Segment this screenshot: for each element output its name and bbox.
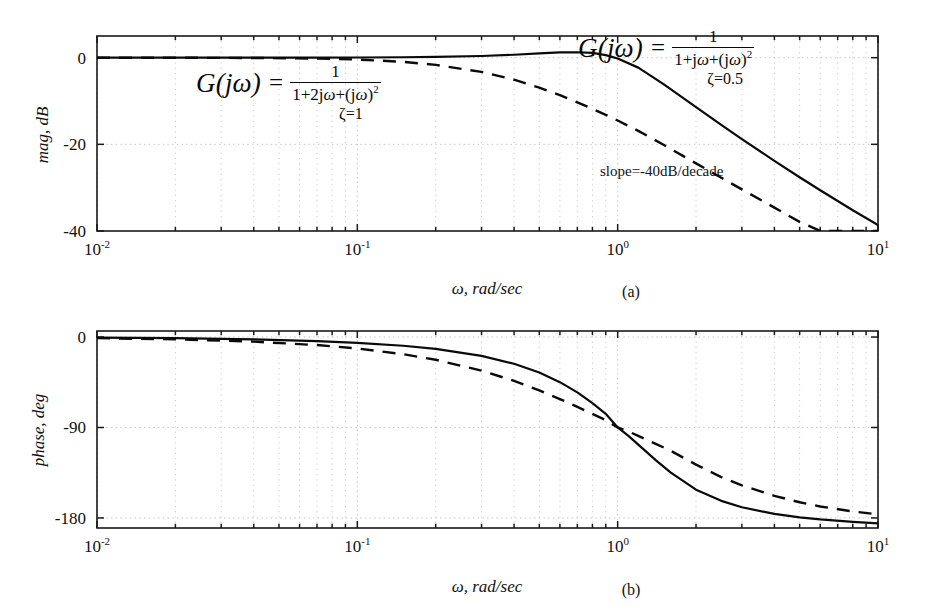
formula-zeta-1: G(jω) = 1 1+2jω+(jω)2 ζ=1 (196, 63, 381, 123)
formula-left-numerator: 1 (326, 63, 345, 82)
x-tick-label: 10-2 (84, 238, 110, 259)
formula-right-equals: = (651, 34, 665, 62)
formula-right-den-mid: +(j (709, 50, 729, 69)
phase-ticks (97, 331, 878, 528)
x-tick-label: 100 (606, 238, 629, 259)
formula-right-denominator: 1+jω+(jω)2 (672, 48, 754, 68)
formula-zeta-0p5: G(jω) = 1 1+jω+(jω)2 ζ=0.5 (578, 28, 754, 88)
phase-plot-frame (97, 331, 878, 528)
y-tick-label: 0 (78, 328, 87, 347)
x-tick-label: 10-1 (344, 535, 370, 556)
y-tick-label: -180 (55, 509, 86, 528)
x-tick-label: 10-1 (344, 238, 370, 259)
formula-right-den-exponent: 2 (747, 48, 753, 60)
magnitude-y-tick-labels: 0-20-40 (63, 49, 86, 241)
x-tick-label: 10-2 (84, 535, 110, 556)
phase-curve-zeta-1 (97, 338, 878, 514)
magnitude-x-axis-title: ω, rad/sec (452, 279, 523, 298)
y-tick-label: -40 (63, 222, 86, 241)
formula-left-den-exponent: 2 (373, 83, 379, 95)
formula-left-damping: ζ=1 (321, 105, 381, 123)
formula-left-fraction: 1 1+2jω+(jω)2 (290, 63, 381, 104)
magnitude-x-tick-labels: 10-210-1100101 (84, 238, 889, 259)
x-tick-label: 101 (867, 535, 890, 556)
formula-right-fraction: 1 1+jω+(jω)2 (672, 28, 754, 69)
y-tick-label: -90 (63, 418, 86, 437)
subplot-caption-a: (a) (622, 283, 640, 301)
magnitude-plot-svg: 0-20-40 10-210-1100101 mag, dB ω, rad/se… (0, 0, 926, 310)
phase-x-tick-labels: 10-210-1100101 (84, 535, 889, 556)
formula-right-damping: ζ=0.5 (696, 70, 754, 88)
phase-panel: 0-90-180 10-210-1100101 phase, deg ω, ra… (0, 310, 926, 615)
formula-left-den-prefix: 1+2j (292, 85, 323, 104)
x-tick-label: 101 (867, 238, 890, 259)
slope-annotation: slope=-40dB/decade (600, 163, 724, 179)
formula-left-denominator: 1+2jω+(jω)2 (290, 83, 381, 103)
formula-left-lhs: G(jω) (196, 68, 261, 99)
y-tick-label: 0 (78, 49, 87, 68)
formula-right-den-prefix: 1+j (674, 50, 697, 69)
formula-left-equals: = (269, 69, 283, 97)
formula-left-den-mid: +(j (335, 85, 355, 104)
formula-right-den-omega: ω (697, 50, 709, 69)
phase-x-axis-title: ω, rad/sec (452, 577, 523, 596)
formula-right-lhs: G(jω) (578, 33, 643, 64)
phase-y-tick-labels: 0-90-180 (55, 328, 86, 528)
magnitude-y-axis-title: mag, dB (33, 106, 52, 163)
phase-gridlines (97, 331, 878, 528)
formula-right-den-omega2: ω (729, 50, 741, 69)
y-tick-label: -20 (63, 135, 86, 154)
formula-left-den-omega2: ω (355, 85, 367, 104)
phase-curve-zeta-0p5 (97, 338, 878, 524)
phase-plot-svg: 0-90-180 10-210-1100101 phase, deg ω, ra… (0, 310, 926, 615)
formula-left-den-omega: ω (323, 85, 335, 104)
bode-plot-figure: 0-20-40 10-210-1100101 mag, dB ω, rad/se… (0, 0, 926, 615)
magnitude-panel: 0-20-40 10-210-1100101 mag, dB ω, rad/se… (0, 0, 926, 310)
subplot-caption-b: (b) (622, 581, 641, 599)
phase-y-axis-title: phase, deg (29, 394, 48, 468)
formula-right-numerator: 1 (704, 28, 723, 47)
x-tick-label: 100 (606, 535, 629, 556)
